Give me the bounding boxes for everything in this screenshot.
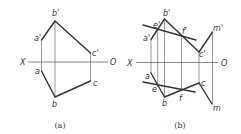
projection-diagram: XOb'a'c'abc(a) XOb'e'a'f'c'm'aebfcm(b) — [0, 0, 241, 134]
object-edge-line — [42, 21, 56, 40]
object-edge-line — [143, 82, 195, 92]
object-edge-line — [55, 21, 91, 53]
point-label-a-prime: a' — [143, 34, 150, 43]
axis-label-o: O — [221, 59, 227, 68]
axis-label-x: X — [19, 58, 26, 67]
point-label-c-prime: c' — [92, 49, 99, 58]
point-label-b-prime: b' — [163, 9, 170, 18]
point-label-f: f — [179, 94, 183, 103]
point-label-f-prime: f' — [182, 27, 187, 36]
point-label-b: b — [162, 99, 167, 108]
point-label-m-prime: m' — [213, 24, 223, 33]
point-label-e: e — [152, 85, 157, 94]
figure-caption-b: (b) — [174, 121, 185, 130]
point-label-m: m — [213, 104, 221, 113]
axis-label-x: X — [126, 59, 133, 68]
point-label-c: c — [93, 79, 98, 88]
object-edge-line — [42, 71, 56, 97]
figure-a-triangle-projection: XOb'a'c'abc(a) — [19, 9, 116, 130]
object-edge-line — [199, 32, 213, 52]
figure-caption-a: (a) — [54, 121, 65, 130]
object-edge-line — [55, 81, 91, 97]
point-label-b: b — [52, 100, 57, 109]
object-edge-line — [143, 25, 196, 40]
point-label-c-prime: c' — [199, 50, 206, 59]
figure-b-line-plane-intersection: XOb'e'a'f'c'm'aebfcm(b) — [126, 9, 227, 130]
point-label-c: c — [201, 79, 206, 88]
point-label-a: a — [145, 72, 150, 81]
point-label-a-prime: a' — [34, 34, 41, 43]
point-label-a: a — [35, 67, 40, 76]
point-label-e-prime: e' — [153, 21, 160, 30]
axis-label-o: O — [110, 58, 116, 67]
point-label-b-prime: b' — [52, 9, 59, 18]
